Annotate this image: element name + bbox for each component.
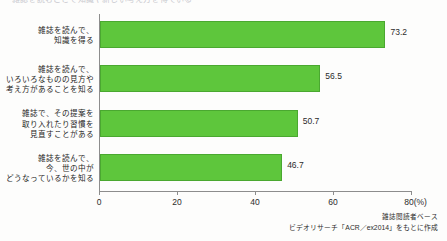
x-tick-0 xyxy=(99,191,100,195)
x-tick-40 xyxy=(255,191,256,195)
category-label: 雑誌を読んで、 今、世の中が どうなっているかを知る xyxy=(0,154,94,185)
category-label: 雑誌を読んで、 いろいろなものの見方や 考え方があることを知る xyxy=(0,65,94,96)
bar-value-label: 50.7 xyxy=(303,116,320,126)
bar[interactable] xyxy=(100,21,385,48)
x-tick-label-0: 0 xyxy=(97,197,102,207)
plot-area: 020406080(%) 雑誌を読んで、 知識を得る73.2雑誌を読んで、 いろ… xyxy=(99,14,411,191)
x-tick-label-20: 20 xyxy=(172,197,181,207)
bar[interactable] xyxy=(100,65,320,92)
bar-row: 雑誌を読んで、 いろいろなものの見方や 考え方があることを知る56.5 xyxy=(99,58,411,102)
bar-value-label: 73.2 xyxy=(390,27,407,37)
bar-value-label: 46.7 xyxy=(287,160,304,170)
chart-page: 雑誌を読むことで知識や新しい考え方を得ている 020406080(%) 雑誌を読… xyxy=(0,0,447,241)
x-tick-label-40: 40 xyxy=(250,197,259,207)
bar-row: 雑誌を読んで、 知識を得る73.2 xyxy=(99,14,411,58)
x-tick-80 xyxy=(411,191,412,195)
bar-row: 雑誌を読んで、 今、世の中が どうなっているかを知る46.7 xyxy=(99,147,411,191)
bar[interactable] xyxy=(100,110,298,137)
x-tick-60 xyxy=(333,191,334,195)
category-label: 雑誌を読んで、 知識を得る xyxy=(0,26,94,46)
bar-value-label: 56.5 xyxy=(325,71,342,81)
bar[interactable] xyxy=(100,154,282,181)
x-tick-label-80: 80(%) xyxy=(404,197,427,207)
x-tick-label-60: 60 xyxy=(328,197,337,207)
bar-row: 雑誌で、その提案を 取り入れたり習慣を 見直すことがある50.7 xyxy=(99,103,411,147)
x-tick-20 xyxy=(177,191,178,195)
cut-off-headline: 雑誌を読むことで知識や新しい考え方を得ている xyxy=(12,0,272,7)
category-label: 雑誌で、その提案を 取り入れたり習慣を 見直すことがある xyxy=(0,109,94,140)
footnote-base: 雑誌閲読者ベース xyxy=(382,211,438,221)
footnote-source: ビデオリサーチ「ACR／ex2014」をもとに作成 xyxy=(289,222,438,232)
